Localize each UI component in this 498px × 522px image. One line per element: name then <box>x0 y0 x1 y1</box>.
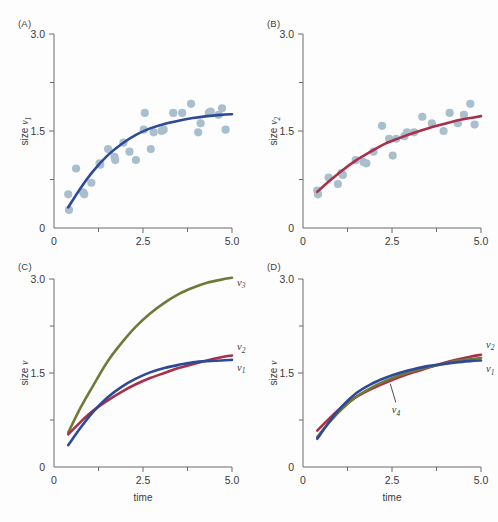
svg-text:ν2: ν2 <box>486 339 495 353</box>
svg-text:size ν: size ν <box>268 360 279 386</box>
panel-c-plot: 01.53.002.55.0size νtimeν3ν2ν1 <box>0 255 249 522</box>
svg-text:3.0: 3.0 <box>30 273 45 285</box>
svg-text:5.0: 5.0 <box>474 474 489 486</box>
svg-text:ν2: ν2 <box>237 341 246 355</box>
svg-text:2.5: 2.5 <box>136 235 151 247</box>
svg-text:1.5: 1.5 <box>279 367 294 379</box>
svg-text:0: 0 <box>288 222 294 234</box>
svg-text:2.5: 2.5 <box>385 474 400 486</box>
svg-text:3.0: 3.0 <box>279 273 294 285</box>
svg-text:ν4: ν4 <box>392 404 401 418</box>
panel-d: (D) 01.53.002.55.0size νtimeν2ν1ν4 <box>249 255 498 516</box>
panel-a-plot: 01.53.002.55.0size ν1 <box>0 0 249 261</box>
svg-text:1.5: 1.5 <box>30 125 45 137</box>
svg-text:ν3: ν3 <box>237 277 246 291</box>
svg-text:ν1: ν1 <box>486 363 494 377</box>
svg-text:3.0: 3.0 <box>279 28 294 40</box>
svg-text:1.5: 1.5 <box>30 367 45 379</box>
svg-text:2.5: 2.5 <box>136 474 151 486</box>
svg-text:5.0: 5.0 <box>474 235 489 247</box>
panel-b-plot: 01.53.002.55.0size ν2 <box>249 0 498 261</box>
svg-text:2.5: 2.5 <box>385 235 400 247</box>
svg-text:5.0: 5.0 <box>225 235 240 247</box>
panel-d-plot: 01.53.002.55.0size νtimeν2ν1ν4 <box>249 255 498 522</box>
panel-c: (C) 01.53.002.55.0size νtimeν3ν2ν1 <box>0 255 249 516</box>
svg-text:5.0: 5.0 <box>225 474 240 486</box>
svg-text:1.5: 1.5 <box>279 125 294 137</box>
figure-panel-grid: (A) 01.53.002.55.0size ν1 (B) 01.53.002.… <box>0 0 498 522</box>
svg-text:0: 0 <box>288 461 294 473</box>
svg-text:ν1: ν1 <box>237 362 245 376</box>
svg-text:size ν: size ν <box>19 360 30 386</box>
svg-text:0: 0 <box>51 235 57 247</box>
svg-text:3.0: 3.0 <box>30 28 45 40</box>
svg-text:time: time <box>134 492 153 503</box>
svg-text:0: 0 <box>300 235 306 247</box>
svg-text:time: time <box>383 492 402 503</box>
svg-text:0: 0 <box>300 474 306 486</box>
svg-text:0: 0 <box>39 461 45 473</box>
svg-text:0: 0 <box>51 474 57 486</box>
panel-b: (B) 01.53.002.55.0size ν2 <box>249 0 498 261</box>
panel-a: (A) 01.53.002.55.0size ν1 <box>0 0 249 261</box>
svg-text:0: 0 <box>39 222 45 234</box>
